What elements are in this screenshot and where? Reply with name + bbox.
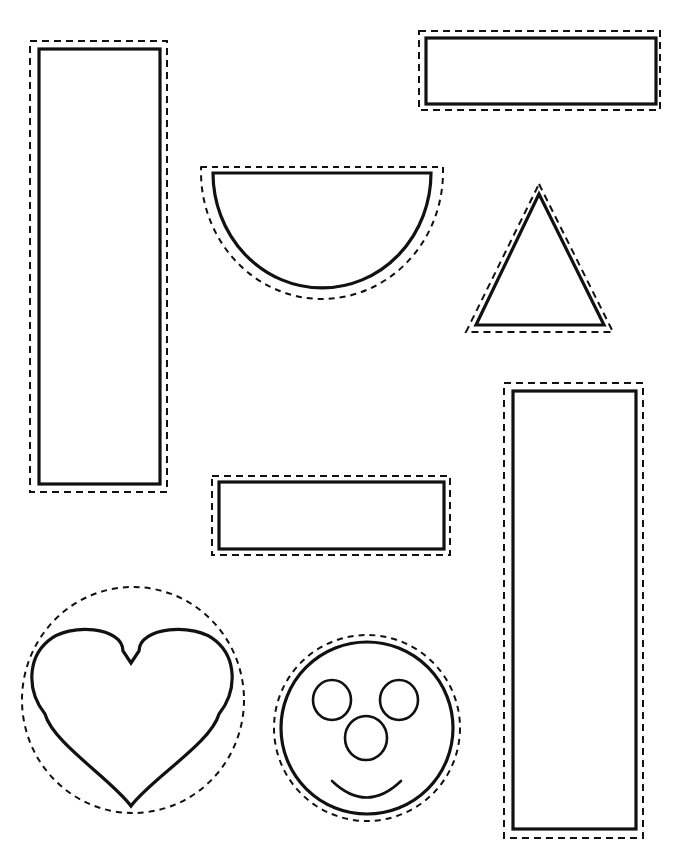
mouth-smile-icon <box>332 781 401 798</box>
outline-wide-rectangle-middle <box>219 482 444 549</box>
shape-tall-rectangle-left[interactable] <box>30 41 167 492</box>
cut-line-tall-rectangle-right <box>504 383 643 838</box>
cut-line-wide-rectangle-top-right <box>419 31 660 110</box>
cut-line-heart <box>22 587 244 813</box>
cut-line-wide-rectangle-middle <box>212 476 450 555</box>
nose-icon <box>345 716 387 760</box>
outline-wide-rectangle-top-right <box>426 38 656 104</box>
shape-tall-rectangle-right[interactable] <box>504 383 643 838</box>
shape-wide-rectangle-top-right[interactable] <box>419 31 660 110</box>
shape-semicircle[interactable] <box>201 167 443 299</box>
shape-smiley-face[interactable] <box>274 635 460 821</box>
left-eye-icon <box>313 680 351 720</box>
outline-heart <box>32 629 232 806</box>
shapes-canvas <box>0 0 679 858</box>
cut-line-semicircle <box>201 167 443 299</box>
outline-tall-rectangle-left <box>39 49 160 484</box>
outline-tall-rectangle-right <box>513 391 636 829</box>
worksheet-page <box>0 0 679 858</box>
outline-triangle <box>476 194 604 325</box>
cut-line-tall-rectangle-left <box>30 41 167 492</box>
outline-smiley-face <box>281 642 453 814</box>
shape-wide-rectangle-middle[interactable] <box>212 476 450 555</box>
outline-semicircle <box>213 173 431 288</box>
right-eye-icon <box>380 680 418 720</box>
cut-line-triangle <box>466 184 613 332</box>
cut-line-smiley-face <box>274 635 460 821</box>
shape-triangle[interactable] <box>466 184 613 332</box>
shape-heart[interactable] <box>22 587 244 813</box>
